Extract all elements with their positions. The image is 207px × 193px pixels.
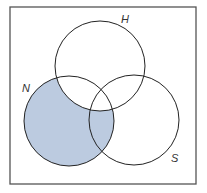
set-h-label: H: [121, 13, 129, 25]
set-n-label: N: [22, 82, 30, 94]
venn-diagram: H N S: [0, 0, 207, 193]
set-s-label: S: [171, 152, 179, 164]
